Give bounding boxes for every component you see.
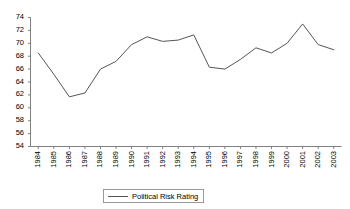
chart-plot-area [0,0,350,209]
x-axis-tick-label: 1991 [143,151,151,168]
x-axis-tick-label: 2000 [283,151,291,168]
chart-axes [31,18,342,147]
y-axis-tick-label: 74 [6,13,24,21]
x-axis-tick-label: 1988 [96,151,104,168]
x-axis-tick-label: 1999 [268,151,276,168]
legend-entry-label: Political Risk Rating [132,192,198,201]
x-axis-tick-label: 1986 [65,151,73,168]
chart-legend: Political Risk Rating [103,189,204,203]
y-axis-tick-label: 68 [6,52,24,60]
chart-container: 7472706866646260585654 19841985198619871… [0,0,350,209]
x-axis-tick-label: 2001 [299,151,307,168]
x-axis-tick-label: 1989 [112,151,120,168]
y-axis-tick-label: 56 [6,129,24,137]
x-axis-tick-label: 2003 [330,151,338,168]
data-series-line [38,24,333,97]
x-axis-tick-label: 1997 [236,151,244,168]
x-axis-tick-label: 2002 [314,151,322,168]
x-axis-tick-label: 1984 [34,151,42,168]
y-axis-tick-label: 62 [6,90,24,98]
x-axis-tick-label: 1992 [159,151,167,168]
x-axis-tick-label: 1995 [205,151,213,168]
x-axis-tick-label: 1990 [128,151,136,168]
x-axis-tick-label: 1994 [190,151,198,168]
y-axis-tick-label: 70 [6,39,24,47]
x-axis-tick-label: 1996 [221,151,229,168]
y-axis-tick-label: 58 [6,116,24,124]
x-axis-tick-label: 1987 [81,151,89,168]
y-axis-tick-label: 64 [6,78,24,86]
x-axis-tick-label: 1985 [50,151,58,168]
y-axis-tick-label: 72 [6,26,24,34]
y-axis-tick-label: 54 [6,142,24,150]
y-axis-tick-label: 66 [6,65,24,73]
legend-line-swatch-icon [108,196,128,197]
x-axis-tick-label: 1998 [252,151,260,168]
y-axis-tick-label: 60 [6,103,24,111]
x-axis-tick-label: 1993 [174,151,182,168]
